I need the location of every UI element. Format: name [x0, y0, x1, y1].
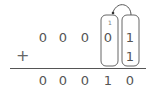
plus-sign: +	[16, 48, 29, 64]
addend1-digit-5: 1	[124, 31, 136, 44]
result-digit-1: 0	[37, 74, 49, 87]
addend1-digit-2: 0	[57, 31, 69, 44]
addend1-digit-3: 0	[79, 31, 91, 44]
result-digit-2: 0	[57, 74, 69, 87]
result-digit-3: 0	[79, 74, 91, 87]
carry-digit: 1	[106, 20, 114, 26]
addend1-digit-1: 0	[37, 31, 49, 44]
addend1-digit-4: 0	[102, 31, 114, 44]
addend2-digit-5: 1	[124, 50, 136, 63]
carry-arrow-head	[112, 12, 115, 15]
result-digit-5: 0	[124, 74, 136, 87]
carry-arrow	[113, 5, 131, 15]
result-digit-4: 1	[102, 74, 114, 87]
